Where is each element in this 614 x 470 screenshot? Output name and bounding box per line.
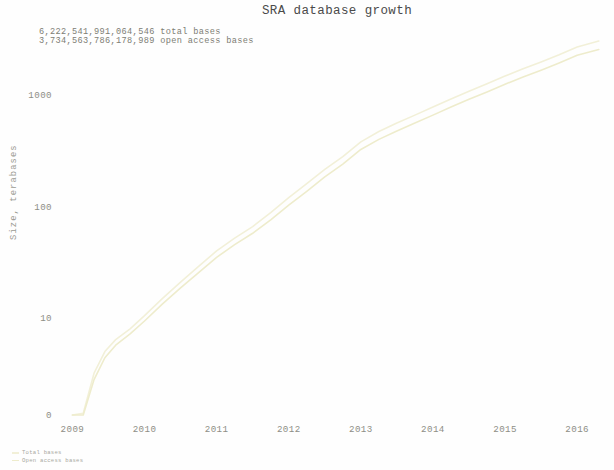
page-title: SRA database growth: [0, 4, 614, 18]
legend-item-total-bases: Total bases: [12, 449, 83, 457]
legend-swatch-total-bases: [12, 452, 19, 454]
legend-label-total-bases: Total bases: [22, 449, 62, 457]
y-axis-tick: 0: [46, 410, 52, 421]
y-axis-tick: 1000: [28, 90, 52, 101]
chart-page: SRA database growth 6,222,541,991,064,54…: [0, 0, 614, 470]
series-lines: [58, 20, 606, 415]
legend-label-open-access-bases: Open access bases: [22, 457, 83, 465]
x-axis-tick: 2012: [277, 424, 301, 435]
series-line: [72, 49, 598, 415]
y-axis-label: Size, terabases: [9, 144, 19, 240]
x-axis-tick: 2016: [565, 424, 589, 435]
x-axis-tick: 2013: [349, 424, 373, 435]
x-axis-tick: 2015: [493, 424, 517, 435]
x-axis-tick: 2014: [421, 424, 445, 435]
y-axis-tick: 100: [34, 201, 52, 212]
series-line: [72, 41, 598, 415]
legend-swatch-open-access-bases: [12, 460, 19, 462]
plot-area: 0101001000 20092010201120122013201420152…: [58, 20, 606, 415]
legend: Total bases Open access bases: [12, 449, 83, 464]
x-axis-tick: 2010: [133, 424, 157, 435]
x-axis-tick: 2009: [61, 424, 85, 435]
x-axis-tick: 2011: [205, 424, 229, 435]
legend-item-open-access-bases: Open access bases: [12, 457, 83, 465]
y-axis-tick: 10: [40, 313, 52, 324]
